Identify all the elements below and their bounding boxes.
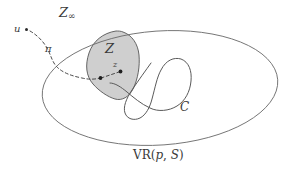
label-point-z: z	[113, 61, 117, 69]
figure-container: Z∞ u π Z z C VR(p, S)	[0, 0, 292, 175]
voronoi-region-boundary	[38, 23, 281, 153]
label-z-infinity-subscript: ∞	[68, 11, 76, 21]
label-vr-arg-p: p	[155, 148, 163, 162]
label-voronoi-region: VR(p, S)	[133, 149, 184, 161]
label-z-infinity: Z∞	[59, 6, 76, 21]
label-z-infinity-base: Z	[59, 5, 68, 20]
label-vr-close-paren: )	[179, 148, 184, 162]
label-curve-c: C	[180, 101, 189, 113]
point-z-dot	[119, 70, 123, 74]
label-zone-z: Z	[105, 42, 114, 55]
label-pi: π	[45, 44, 52, 54]
point-pi-endpoint-dot	[99, 76, 103, 80]
label-vr-function: VR	[133, 148, 151, 162]
label-vr-comma: ,	[163, 148, 171, 162]
label-vr-arg-s: S	[171, 148, 179, 162]
point-u-dot	[25, 28, 28, 31]
label-u: u	[14, 24, 20, 34]
